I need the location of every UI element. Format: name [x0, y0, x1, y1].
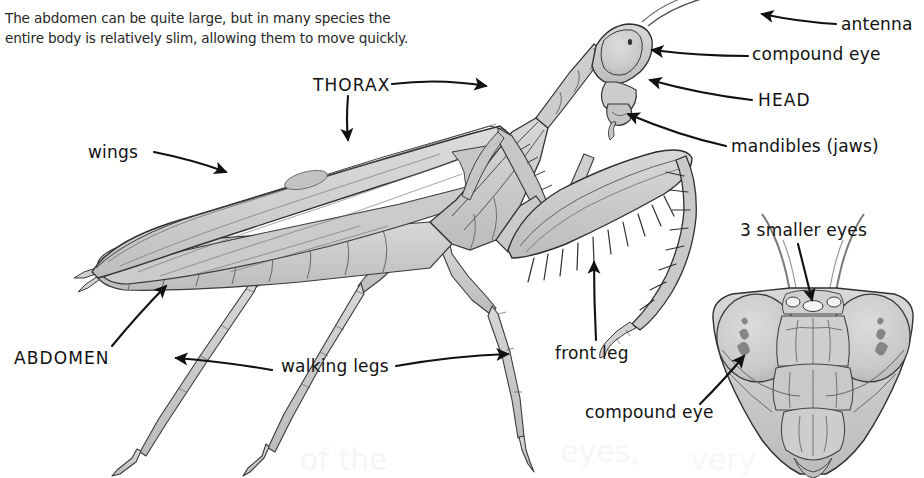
label-mandibles: mandibles (jaws)	[731, 138, 879, 155]
label-walking-legs: walking legs	[281, 358, 389, 375]
arrow-walking-legs-left	[176, 358, 272, 370]
label-antenna: antenna	[841, 16, 913, 33]
label-abdomen: ABDOMEN	[14, 350, 110, 367]
arrow-walking-legs-right	[396, 354, 508, 366]
label-compound-eye-side: compound eye	[752, 46, 881, 63]
ocellus-center	[803, 301, 823, 312]
arrow-compound-eye-side	[652, 50, 748, 56]
svg-text:very: very	[690, 442, 756, 477]
ocellus-left	[786, 297, 800, 307]
arrow-head	[650, 80, 752, 100]
svg-text:eyes,: eyes,	[560, 434, 640, 469]
label-compound-eye-front: compound eye	[585, 404, 714, 421]
arrow-antenna	[762, 14, 836, 24]
intro-paragraph: The abdomen can be quite large, but in m…	[5, 8, 525, 48]
arrow-front-leg	[594, 262, 596, 340]
label-thorax: THORAX	[313, 77, 391, 94]
label-wings: wings	[88, 144, 138, 161]
label-three-smaller-eyes: 3 smaller eyes	[740, 222, 867, 239]
ocellus-right	[827, 297, 841, 307]
figure-page: of the eyes, very	[0, 0, 924, 478]
label-front-leg: front leg	[555, 345, 629, 362]
arrow-abdomen	[112, 286, 166, 346]
arrow-mandibles	[628, 114, 726, 146]
arrow-thorax-down	[347, 96, 348, 140]
svg-text:of the: of the	[300, 442, 388, 477]
label-head: HEAD	[758, 92, 811, 109]
head-front-view-figure	[711, 214, 917, 478]
arrow-thorax-right	[392, 81, 486, 86]
arrow-wings	[154, 152, 226, 172]
head-side-shape	[592, 0, 712, 140]
